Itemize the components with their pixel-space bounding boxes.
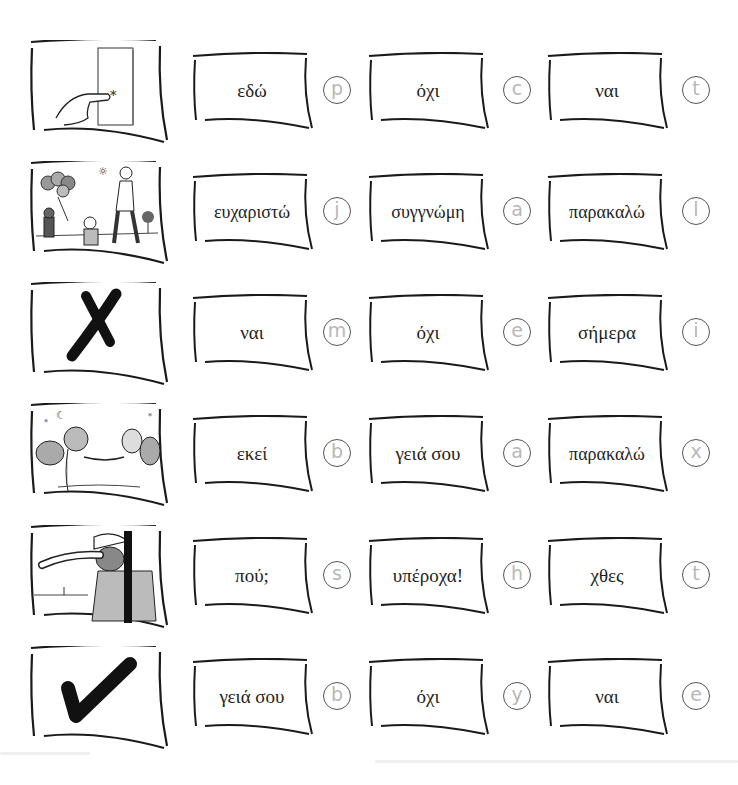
picture-frame: *: [28, 40, 170, 144]
svg-text:*: *: [110, 88, 117, 103]
picture-aliens-shaking-hands: ☾**: [28, 403, 170, 507]
answer-letter-circle[interactable]: s: [323, 561, 351, 589]
word-card: ναι: [546, 658, 668, 736]
answer-letter-circle[interactable]: p: [323, 76, 351, 104]
word-card: παρακαλώ: [546, 173, 668, 251]
picture-frame: [28, 525, 170, 629]
answer-letter-circle[interactable]: a: [503, 197, 531, 225]
word-card: όχι: [367, 52, 489, 130]
answer-letter-circle[interactable]: a: [503, 439, 531, 467]
picture-man-with-balloons-and-children: ☼: [28, 161, 170, 265]
word-text: χθες: [546, 537, 668, 615]
answer-letter-circle[interactable]: b: [323, 682, 351, 710]
answer-letter-circle[interactable]: c: [503, 76, 531, 104]
exercise-row-1: * εδώ p όχι c ναι t: [0, 40, 738, 162]
svg-text:*: *: [148, 412, 152, 421]
answer-letter-circle[interactable]: e: [503, 318, 531, 346]
answer-letter-circle[interactable]: x: [682, 439, 710, 467]
scan-smudge: [0, 752, 90, 755]
exercise-row-5: πού; s υπέροχα! h χθες t: [0, 525, 738, 647]
word-card: πού;: [191, 537, 313, 615]
answer-letter-circle[interactable]: i: [682, 318, 710, 346]
picture-finger-pointing-at-door: *: [28, 40, 170, 144]
word-text: ναι: [191, 294, 313, 372]
word-card: παρακαλώ: [546, 415, 668, 493]
answer-letter-circle[interactable]: h: [503, 561, 531, 589]
word-text: εκεί: [191, 415, 313, 493]
exercise-row-4: ☾** εκεί b γειά σου a παρακαλώ x: [0, 403, 738, 525]
word-text: παρακαλώ: [546, 173, 668, 251]
exercise-row-2: ☼ ευχαριστώ j συγγνώμη a παρακαλώ l: [0, 161, 738, 283]
answer-letter-circle[interactable]: y: [503, 682, 531, 710]
word-text: συγγνώμη: [367, 173, 489, 251]
word-card: γειά σου: [367, 415, 489, 493]
picture-cross-mark: [28, 282, 170, 386]
word-text: όχι: [367, 658, 489, 736]
word-card: ευχαριστώ: [191, 173, 313, 251]
svg-text:☾: ☾: [56, 409, 66, 422]
word-text: πού;: [191, 537, 313, 615]
answer-letter-circle[interactable]: t: [682, 561, 710, 589]
word-text: γειά σου: [191, 658, 313, 736]
word-card: εκεί: [191, 415, 313, 493]
check-icon: [28, 646, 170, 750]
answer-letter-circle[interactable]: l: [682, 197, 710, 225]
word-text: ευχαριστώ: [191, 173, 313, 251]
word-card: εδώ: [191, 52, 313, 130]
word-card: όχι: [367, 658, 489, 736]
word-card: γειά σου: [191, 658, 313, 736]
word-text: υπέροχα!: [367, 537, 489, 615]
svg-text:*: *: [44, 418, 48, 427]
word-text: σήμερα: [546, 294, 668, 372]
svg-text:☼: ☼: [98, 165, 108, 178]
picture-explorer-looking: [28, 525, 170, 629]
scan-smudge: [375, 760, 738, 763]
exercise-row-3: ναι m όχι e σήμερα i: [0, 282, 738, 404]
answer-letter-circle[interactable]: m: [323, 318, 351, 346]
word-card: χθες: [546, 537, 668, 615]
word-text: ναι: [546, 52, 668, 130]
exercise-row-6: γειά σου b όχι y ναι e: [0, 646, 738, 768]
answer-letter-circle[interactable]: j: [323, 197, 351, 225]
answer-letter-circle[interactable]: b: [323, 439, 351, 467]
word-text: όχι: [367, 52, 489, 130]
answer-letter-circle[interactable]: t: [682, 76, 710, 104]
word-card: σήμερα: [546, 294, 668, 372]
word-text: παρακαλώ: [546, 415, 668, 493]
word-text: γειά σου: [367, 415, 489, 493]
word-card: ναι: [191, 294, 313, 372]
answer-letter-circle[interactable]: e: [682, 682, 710, 710]
picture-frame: ☾**: [28, 403, 170, 507]
picture-frame: ☼: [28, 161, 170, 265]
word-card: ναι: [546, 52, 668, 130]
word-text: εδώ: [191, 52, 313, 130]
word-card: συγγνώμη: [367, 173, 489, 251]
word-text: όχι: [367, 294, 489, 372]
word-text: ναι: [546, 658, 668, 736]
picture-check-mark: [28, 646, 170, 750]
word-card: όχι: [367, 294, 489, 372]
word-card: υπέροχα!: [367, 537, 489, 615]
cross-icon: [28, 282, 170, 386]
